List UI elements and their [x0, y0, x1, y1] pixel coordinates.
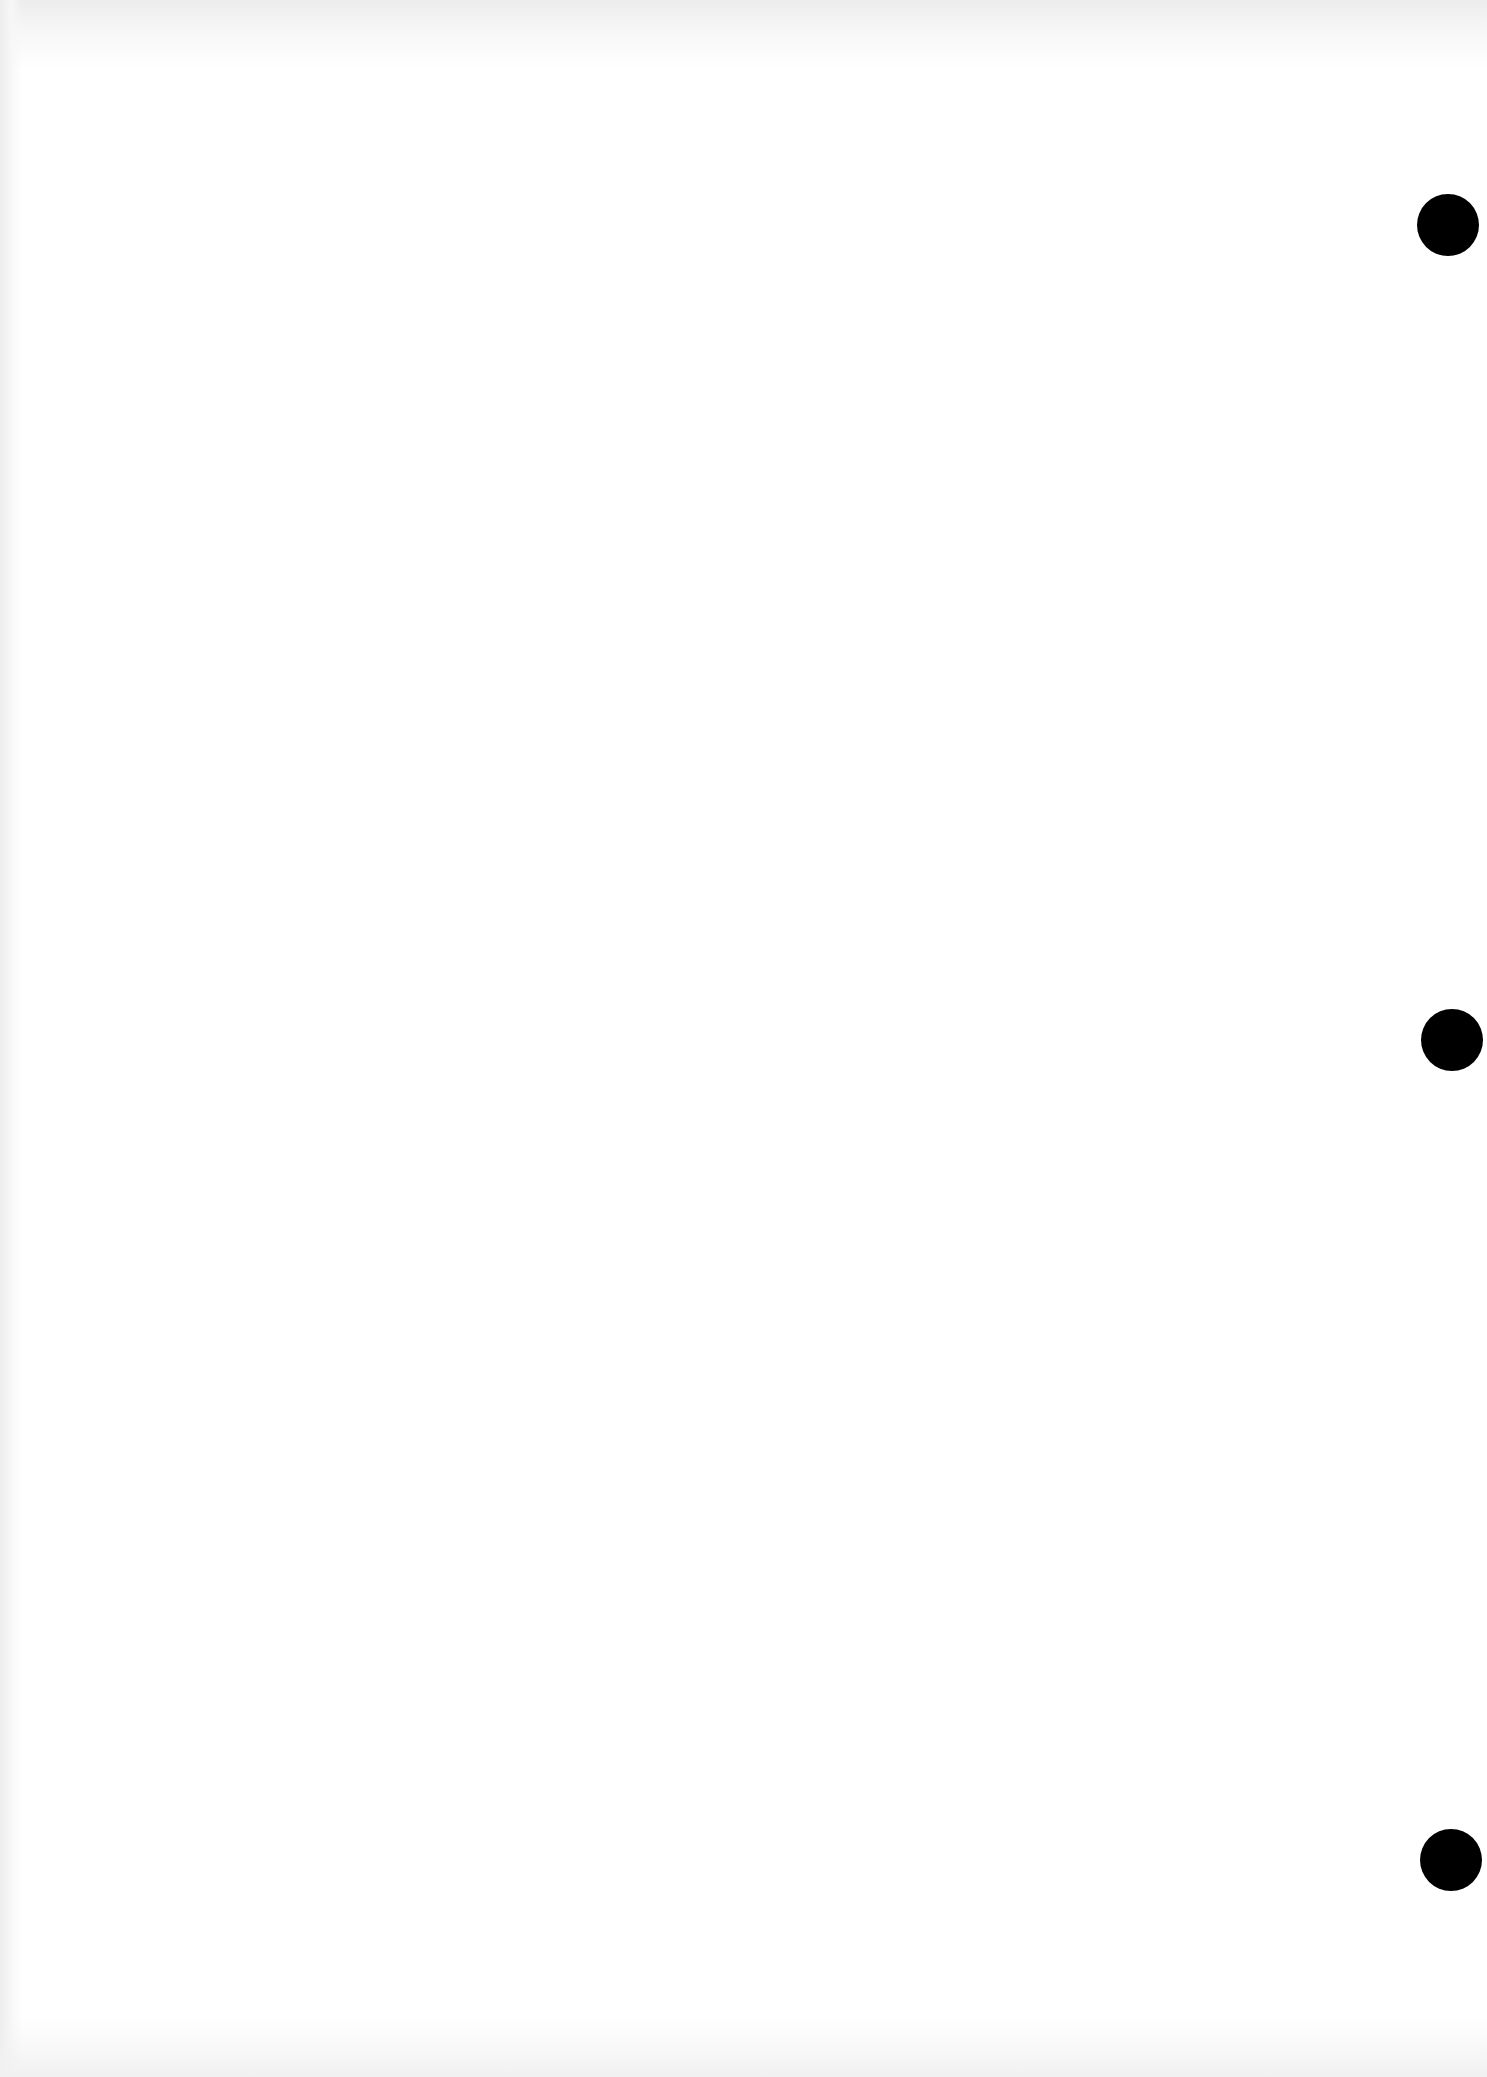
punch-hole-middle — [1421, 1009, 1483, 1071]
scanned-page — [0, 0, 1487, 2077]
page-body — [120, 120, 1327, 1957]
punch-hole-bottom — [1420, 1829, 1482, 1891]
scan-edge-shadow-top — [0, 0, 1487, 70]
punch-hole-top — [1417, 194, 1479, 256]
scan-edge-shadow-left — [0, 0, 22, 2077]
scan-edge-shadow-bottom — [0, 2017, 1487, 2077]
